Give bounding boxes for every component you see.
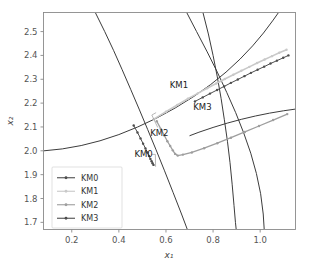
series-marker-KM2-9 <box>191 151 193 153</box>
legend-label-KM1: KM1 <box>81 187 98 196</box>
series-marker-KM2-12 <box>230 136 232 138</box>
legend-label-KM2: KM2 <box>81 201 98 210</box>
constraint-curve-constraint-e <box>190 109 296 136</box>
series-marker-KM0-1 <box>136 131 138 133</box>
series-marker-KM1-15 <box>285 49 287 51</box>
y-tick-label-2: 1.9 <box>24 170 38 180</box>
x-axis-title: x₁ <box>164 250 174 260</box>
y-tick-label-5: 2.2 <box>24 98 38 108</box>
series-marker-KM2-7 <box>177 154 179 156</box>
series-marker-KM0-2 <box>139 137 141 139</box>
legend[interactable]: KM0KM1KM2KM3 <box>52 167 122 228</box>
series-marker-KM3-10 <box>263 65 265 67</box>
chart-figure: 0.20.40.60.81.0 1.71.81.92.02.12.22.32.4… <box>0 0 311 266</box>
series-marker-KM3-14 <box>287 54 289 56</box>
series-marker-KM2-6 <box>174 153 176 155</box>
series-marker-KM1-14 <box>278 52 280 54</box>
series-line-KM3 <box>195 55 288 101</box>
series-marker-KM0-10 <box>152 164 154 166</box>
y-tick-label-4: 2.1 <box>24 122 38 132</box>
y-tick-label-3: 2.0 <box>24 146 38 156</box>
series-marker-KM1-5 <box>206 87 208 89</box>
annotation-label-KM2: KM2 <box>150 128 168 138</box>
series-marker-KM0-3 <box>142 142 144 144</box>
y-tick-label-8: 2.5 <box>24 27 38 37</box>
legend-marker-KM3 <box>65 217 68 220</box>
legend-marker-KM1 <box>65 190 68 193</box>
series-marker-KM1-4 <box>197 92 199 94</box>
series-marker-KM2-10 <box>203 147 205 149</box>
series-marker-KM1-2 <box>176 104 178 106</box>
series-marker-KM1-8 <box>232 74 234 76</box>
y-tick-label-0: 1.7 <box>24 217 38 227</box>
series-marker-KM3-11 <box>269 62 271 64</box>
series-marker-KM2-13 <box>244 131 246 133</box>
series-marker-KM1-13 <box>271 55 273 57</box>
series-marker-KM3-5 <box>230 82 232 84</box>
series-marker-KM3-1 <box>202 96 204 98</box>
series-marker-KM1-9 <box>240 69 242 71</box>
legend-label-KM0: KM0 <box>81 174 98 183</box>
series-marker-KM2-11 <box>216 142 218 144</box>
series-marker-KM2-16 <box>286 113 288 115</box>
series-marker-KM1-1 <box>165 111 167 113</box>
series-marker-KM1-12 <box>263 58 265 60</box>
annotation-label-KM3: KM3 <box>193 102 211 112</box>
series-marker-KM3-2 <box>209 92 211 94</box>
y-tick-label-6: 2.3 <box>24 74 38 84</box>
series-marker-KM2-5 <box>172 149 174 151</box>
legend-marker-KM2 <box>65 203 68 206</box>
series-marker-KM2-0 <box>156 120 158 122</box>
series-line-KM2 <box>157 114 287 156</box>
x-axis-ticks-group: 0.20.40.60.81.0 <box>65 230 267 245</box>
series-marker-KM1-6 <box>215 82 217 84</box>
legend-marker-KM0 <box>65 176 68 179</box>
series-marker-KM3-8 <box>250 72 252 74</box>
series-marker-KM2-14 <box>258 125 260 127</box>
series-KM3 <box>194 54 290 102</box>
y-tick-label-1: 1.8 <box>24 194 38 204</box>
series-marker-KM2-8 <box>182 153 184 155</box>
series-marker-KM3-3 <box>216 89 218 91</box>
x-tick-label-3: 0.8 <box>206 235 220 245</box>
x-tick-label-4: 1.0 <box>253 235 267 245</box>
legend-label-KM3: KM3 <box>81 214 98 223</box>
x-tick-label-2: 0.6 <box>159 235 173 245</box>
series-marker-KM1-11 <box>256 62 258 64</box>
series-marker-KM3-13 <box>282 57 284 59</box>
annotation-label-KM1: KM1 <box>170 80 188 90</box>
series-marker-KM1-3 <box>187 98 189 100</box>
series-marker-KM0-0 <box>133 124 135 126</box>
annotation-label-KM0: KM0 <box>134 149 152 159</box>
x-tick-label-0: 0.2 <box>65 235 79 245</box>
series-marker-KM2-15 <box>272 119 274 121</box>
series-marker-KM3-12 <box>276 59 278 61</box>
series-marker-KM1-10 <box>248 66 250 68</box>
plot-canvas: 0.20.40.60.81.0 1.71.81.92.02.12.22.32.4… <box>0 0 311 266</box>
series-marker-KM1-7 <box>224 78 226 80</box>
series-marker-KM3-7 <box>243 75 245 77</box>
y-axis-title: x₂ <box>5 116 15 126</box>
constraint-curve-constraint-d <box>187 13 264 230</box>
y-tick-label-7: 2.4 <box>24 50 38 60</box>
x-tick-label-1: 0.4 <box>112 235 126 245</box>
series-marker-KM2-3 <box>166 140 168 142</box>
series-marker-KM2-4 <box>169 145 171 147</box>
constraint-curve-constraint-c <box>203 13 236 230</box>
y-axis-ticks-group: 1.71.81.92.02.12.22.32.42.5 <box>24 27 44 228</box>
series-KM2 <box>156 113 289 157</box>
series-marker-KM3-6 <box>237 78 239 80</box>
series-marker-KM3-4 <box>223 85 225 87</box>
series-marker-KM3-9 <box>256 69 258 71</box>
